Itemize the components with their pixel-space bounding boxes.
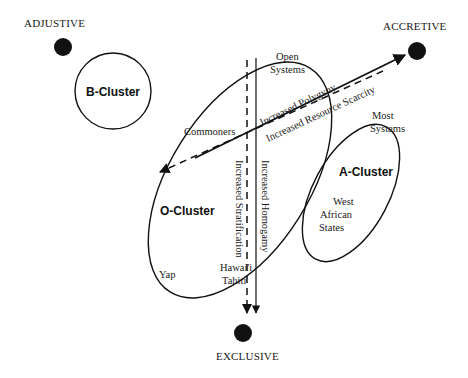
- west-african-label: West: [333, 196, 354, 207]
- accretive-dot: [408, 42, 426, 60]
- adjustive-dot: [54, 38, 72, 56]
- a-cluster: A-Cluster: [282, 109, 420, 277]
- tahiti-label: Tahiti: [222, 275, 246, 286]
- scarcity-arrow: Increased Resource Scarcity: [160, 71, 383, 172]
- svg-text:Increased Homogamy: Increased Homogamy: [260, 160, 271, 253]
- svg-text:ACCRETIVE: ACCRETIVE: [383, 20, 447, 32]
- homogamy-arrow: Increased Homogamy: [256, 58, 271, 313]
- b-cluster: B-Cluster: [75, 53, 151, 129]
- svg-text:O-Cluster: O-Cluster: [160, 204, 215, 218]
- most-systems-label-2: Systems: [370, 123, 405, 134]
- most-systems-label: Most: [372, 110, 394, 121]
- svg-text:B-Cluster: B-Cluster: [86, 85, 140, 99]
- pole-adjustive: ADJUSTIVE: [24, 17, 85, 56]
- svg-text:EXCLUSIVE: EXCLUSIVE: [216, 350, 279, 362]
- svg-text:Increased Stratification: Increased Stratification: [234, 160, 245, 258]
- open-systems-label: Open: [276, 51, 299, 62]
- west-african-label-2: African: [320, 209, 353, 220]
- hawaii-label: Hawai'i: [220, 262, 252, 273]
- commoners-label: Commoners: [184, 126, 235, 137]
- cluster-diagram: ADJUSTIVE ACCRETIVE EXCLUSIVE B-Cluster …: [0, 0, 468, 378]
- west-african-label-3: States: [319, 222, 344, 233]
- open-systems-label-2: Systems: [270, 64, 305, 75]
- pole-accretive: ACCRETIVE: [383, 20, 447, 60]
- exclusive-dot: [234, 324, 252, 342]
- svg-text:A-Cluster: A-Cluster: [339, 165, 393, 179]
- pole-exclusive: EXCLUSIVE: [216, 324, 279, 362]
- svg-text:ADJUSTIVE: ADJUSTIVE: [24, 17, 85, 29]
- yap-label: Yap: [159, 269, 175, 280]
